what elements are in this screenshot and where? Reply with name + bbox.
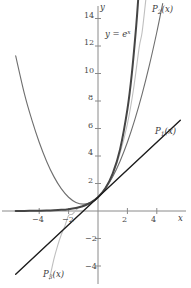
x-tick-label-minus2: −2 — [62, 216, 74, 224]
curve-label-p3-arg: (x) — [53, 269, 64, 279]
x-axis-label: x — [178, 214, 183, 223]
y-tick-label-6: 6 — [88, 122, 93, 130]
x-tick-label-minus4: −4 — [32, 216, 44, 224]
figure-container: −4 −2 2 4 14 12 10 8 6 4 2 −2 −4 y x y =… — [0, 0, 191, 288]
curve-p2x — [16, 4, 163, 204]
curve-label-p3: P3(x) — [43, 270, 64, 280]
y-tick-label-12: 12 — [84, 39, 94, 47]
curve-label-p1-arg: (x) — [165, 126, 176, 136]
curve-label-exp: y = ex — [105, 29, 131, 39]
x-tick-label-4: 4 — [151, 216, 156, 224]
y-tick-label-minus4: −4 — [85, 263, 97, 271]
y-tick-label-10: 10 — [84, 67, 94, 75]
y-tick-label-2: 2 — [88, 177, 93, 185]
y-axis-label: y — [100, 3, 105, 12]
y-tick-label-14: 14 — [84, 12, 94, 20]
curve-label-p2-arg: (x) — [162, 4, 173, 14]
plot-canvas — [0, 0, 191, 288]
curve-label-p1: P1(x) — [155, 127, 176, 137]
curve-label-p2: P2(x) — [152, 5, 173, 15]
y-tick-label-minus2: −2 — [85, 235, 97, 243]
curve-label-exp-exponent: x — [127, 28, 130, 35]
x-tick-label-2: 2 — [122, 216, 127, 224]
y-tick-label-4: 4 — [88, 149, 93, 157]
y-tick-label-8: 8 — [88, 94, 93, 102]
curve-label-exp-base: y = e — [105, 29, 127, 39]
